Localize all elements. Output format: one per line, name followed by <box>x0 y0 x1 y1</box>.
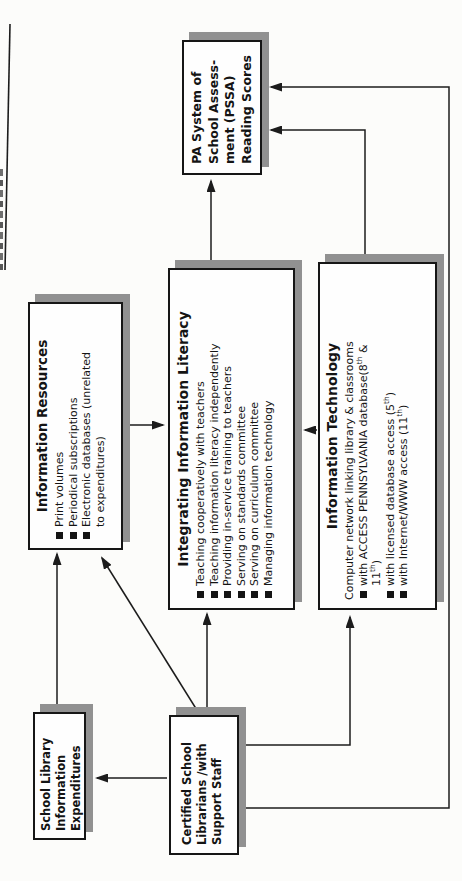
bullet-text: Electronic databases (unrelatedto expend… <box>80 352 107 527</box>
box-text-line: Information <box>54 721 69 831</box>
header-rule-line <box>5 24 10 270</box>
box-text-line: Computer network linking library & class… <box>343 272 357 600</box>
bullet-item: Serving on standards committee <box>235 278 249 600</box>
box-text-line: Reading Scores <box>239 51 256 164</box>
diagram-stage: School Library Information Expenditures … <box>0 0 462 881</box>
superscript: th <box>382 396 391 404</box>
superscript: th <box>395 409 404 417</box>
box-integrating-information-literacy: Integrating Information Literacy Teachin… <box>168 268 295 610</box>
box-text-line: Certified School <box>180 725 195 845</box>
text-run: with Internet/WWW access (11 <box>397 417 410 586</box>
text-run: to expenditures) <box>94 436 107 527</box>
bullet-square-icon <box>400 591 407 598</box>
box-information-resources: Information Resources Print volumes Peri… <box>28 302 123 550</box>
box-information-technology: Information Technology Computer network … <box>318 262 437 610</box>
bullet-square-icon <box>56 532 63 539</box>
bullet-square-icon <box>238 591 245 598</box>
box-title: Information Technology <box>324 272 341 600</box>
bullet-square-icon <box>251 591 258 598</box>
bullet-item: Serving on curriculum committee <box>248 278 262 600</box>
bullet-item: Providing in-service training to teacher… <box>221 278 235 600</box>
bullet-square-icon <box>387 591 394 598</box>
superscript: th <box>368 564 377 572</box>
text-run: with licensed database access (5 <box>384 404 397 586</box>
box-text-line: School Library <box>39 721 54 831</box>
bullet-square-icon <box>70 532 77 539</box>
bullet-item: Managing information technology <box>262 278 276 600</box>
bullet-text: Providing in-service training to teacher… <box>221 366 235 586</box>
bullet-text: with ACCESS PENNSYLVANIA database(8th &1… <box>357 344 384 586</box>
text-run: ) <box>370 560 383 564</box>
box-text-line: PA System of <box>189 51 206 164</box>
bullet-item: with ACCESS PENNSYLVANIA database(8th &1… <box>357 272 384 600</box>
bullet-item: Periodical subscriptions <box>67 311 81 541</box>
superscript: th <box>355 357 364 365</box>
text-run: 11 <box>370 572 383 586</box>
text-run: ) <box>384 392 397 396</box>
box-title: Integrating Information Literacy <box>175 278 192 600</box>
bullet-text: Periodical subscriptions <box>67 397 81 527</box>
box-text-line: Librarians /with <box>195 725 210 845</box>
box-text-line: School Assess- <box>206 51 223 164</box>
bullet-item: with Internet/WWW access (11th) <box>397 272 411 600</box>
bullet-item: Teaching information literacy independen… <box>208 278 222 600</box>
bullet-text: Managing information technology <box>262 401 276 587</box>
bullet-item: Electronic databases (unrelatedto expend… <box>80 311 107 541</box>
box-text-line: Expenditures <box>69 721 84 831</box>
bullet-square-icon <box>224 591 231 598</box>
box-text-line: Support Staff <box>210 725 225 845</box>
text-run: Electronic databases (unrelated <box>80 352 93 527</box>
bullet-text: Serving on curriculum committee <box>248 402 262 586</box>
bullet-square-icon <box>265 591 272 598</box>
box-title: Information Resources <box>34 311 51 541</box>
bullet-text: Teaching cooperatively with teachers <box>194 381 208 586</box>
box-certified-school-librarians: Certified School Librarians /with Suppor… <box>169 715 239 855</box>
arrow-information-technology-to-pssa <box>271 130 365 261</box>
bullet-text: with Internet/WWW access (11th) <box>397 405 411 586</box>
bullet-item: with licensed database access (5th) <box>384 272 398 600</box>
bullet-square-icon <box>360 591 367 598</box>
box-text-line: ment (PSSA) <box>222 51 239 164</box>
bullet-text: Print volumes <box>53 452 67 527</box>
bullet-item: Print volumes <box>53 311 67 541</box>
cropped-caption-fragment <box>0 168 3 270</box>
text-run: with ACCESS PENNSYLVANIA database(8 <box>357 364 370 586</box>
bullet-text: Serving on standards committee <box>235 406 249 586</box>
bullet-square-icon <box>83 532 90 539</box>
arrow-certified-to-information-technology <box>240 617 350 745</box>
bullet-text: with licensed database access (5th) <box>384 392 398 586</box>
scanned-page: School Library Information Expenditures … <box>0 0 462 881</box>
bullet-square-icon <box>211 591 218 598</box>
box-school-library-expenditures: School Library Information Expenditures <box>33 712 86 840</box>
text-run: & <box>357 344 370 356</box>
text-run: ) <box>397 405 410 409</box>
box-pssa-reading-scores: PA System of School Assess- ment (PSSA) … <box>182 40 262 175</box>
bullet-text: Teaching information literacy independen… <box>208 344 222 586</box>
bullet-square-icon <box>197 591 204 598</box>
bullet-item: Teaching cooperatively with teachers <box>194 278 208 600</box>
